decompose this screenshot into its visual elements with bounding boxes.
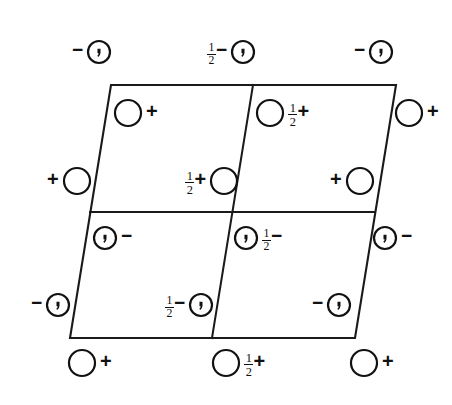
- site-marker-general: [213, 350, 239, 376]
- site-sign: −: [72, 39, 83, 60]
- site-sign: −: [354, 39, 365, 60]
- fraction-denominator: 2: [288, 115, 297, 128]
- symmetry-site-markers: [47, 41, 422, 376]
- site-height-label: +: [330, 169, 342, 189]
- fraction-denominator: 2: [185, 183, 194, 196]
- site-height-label: −: [354, 40, 365, 59]
- fraction-numerator: 1: [207, 42, 216, 55]
- site-marker-enantiomorph: [235, 227, 257, 249]
- fraction-numerator: 1: [262, 228, 271, 241]
- site-sign: +: [254, 350, 266, 372]
- site-height-label: +: [427, 101, 439, 121]
- open-circle-icon: [213, 350, 239, 376]
- site-sign: +: [382, 350, 394, 372]
- site-sign: +: [195, 168, 207, 190]
- site-sign: −: [174, 292, 185, 313]
- site-sign: −: [271, 225, 282, 246]
- fraction-one-half: 12: [165, 295, 174, 321]
- site-height-label: +: [47, 169, 59, 189]
- space-group-diagram: −12−−+12+++12++−12−−−12−−+12++: [0, 0, 452, 405]
- fraction-denominator: 2: [262, 241, 271, 254]
- site-marker-general: [69, 350, 95, 376]
- site-sign: −: [216, 39, 227, 60]
- site-height-label: 12−: [165, 293, 185, 320]
- fraction-one-half: 12: [207, 42, 216, 68]
- site-height-label: +: [100, 351, 112, 371]
- fraction-denominator: 2: [244, 365, 253, 378]
- site-marker-general: [211, 168, 237, 194]
- open-circle-icon: [396, 100, 422, 126]
- site-height-label: −: [401, 226, 412, 245]
- site-marker-enantiomorph: [47, 294, 69, 316]
- site-marker-general: [347, 168, 373, 194]
- site-height-label: 12+: [185, 169, 206, 198]
- open-circle-icon: [64, 168, 90, 194]
- site-sign: −: [31, 292, 42, 313]
- site-marker-enantiomorph: [94, 227, 116, 249]
- site-sign: −: [401, 225, 412, 246]
- open-circle-icon: [211, 168, 237, 194]
- site-marker-enantiomorph: [370, 41, 392, 63]
- site-marker-enantiomorph: [328, 294, 350, 316]
- site-marker-enantiomorph: [190, 294, 212, 316]
- site-height-label: 12−: [262, 226, 282, 253]
- fraction-one-half: 12: [185, 170, 194, 197]
- site-height-label: −: [121, 226, 132, 245]
- site-height-label: −: [72, 40, 83, 59]
- site-height-label: +: [382, 351, 394, 371]
- site-sign: +: [47, 168, 59, 190]
- site-height-label: 12+: [288, 101, 309, 130]
- fraction-one-half: 12: [288, 102, 297, 129]
- site-sign: +: [146, 100, 158, 122]
- site-sign: −: [312, 292, 323, 313]
- site-sign: +: [298, 100, 310, 122]
- site-marker-general: [64, 168, 90, 194]
- fraction-numerator: 1: [288, 102, 297, 116]
- fraction-numerator: 1: [244, 352, 253, 366]
- site-marker-enantiomorph: [232, 41, 254, 63]
- site-sign: −: [121, 225, 132, 246]
- site-marker-enantiomorph: [374, 227, 396, 249]
- fraction-one-half: 12: [262, 228, 271, 254]
- open-circle-icon: [69, 350, 95, 376]
- site-marker-enantiomorph: [88, 41, 110, 63]
- open-circle-icon: [351, 350, 377, 376]
- site-marker-general: [351, 350, 377, 376]
- open-circle-icon: [347, 168, 373, 194]
- open-circle-icon: [257, 100, 283, 126]
- fraction-one-half: 12: [244, 352, 253, 379]
- site-marker-general: [396, 100, 422, 126]
- fraction-denominator: 2: [207, 55, 216, 68]
- site-sign: +: [330, 168, 342, 190]
- site-sign: +: [100, 350, 112, 372]
- site-marker-general: [257, 100, 283, 126]
- fraction-numerator: 1: [185, 170, 194, 184]
- fraction-numerator: 1: [165, 295, 174, 308]
- open-circle-icon: [115, 100, 141, 126]
- site-marker-general: [115, 100, 141, 126]
- site-height-label: 12+: [244, 351, 265, 380]
- site-height-label: 12−: [207, 40, 227, 67]
- site-height-label: +: [146, 101, 158, 121]
- fraction-denominator: 2: [165, 308, 174, 321]
- site-height-label: −: [31, 293, 42, 312]
- site-height-label: −: [312, 293, 323, 312]
- site-sign: +: [427, 100, 439, 122]
